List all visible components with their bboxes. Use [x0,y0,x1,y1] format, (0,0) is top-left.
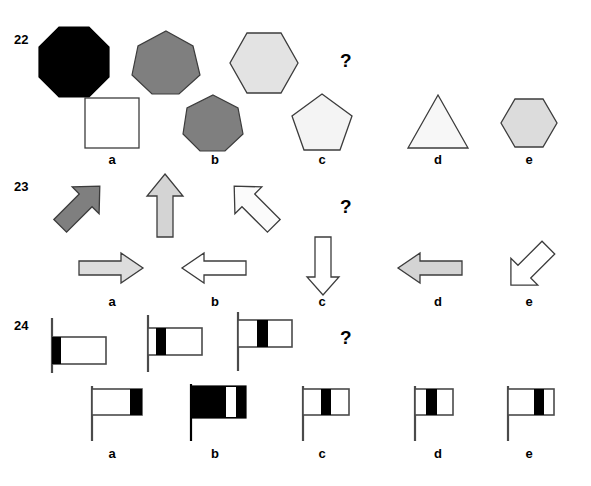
problem-23-option-b-label: b [205,294,225,309]
problem-22-prompt-hexagon [229,32,299,94]
problem-24-option-d-label: d [428,446,448,461]
problem-24-option-e-label: e [519,446,539,461]
problem-23-option-b-arrow-left[interactable] [180,251,248,285]
puzzle-page: 22 ? a b c [0,0,591,486]
problem-number-22: 22 [14,32,28,47]
problem-23-question-mark: ? [340,196,352,218]
problem-23-option-c-arrow-down[interactable] [305,235,341,297]
problem-23-option-a-arrow-right[interactable] [77,251,145,285]
problem-23-prompt-arrow-up-left [218,177,290,235]
problem-23-option-d-arrow-left[interactable] [396,251,464,285]
problem-22-option-b-label: b [205,152,225,167]
problem-24-option-c-flag[interactable] [300,386,358,442]
problem-24-question-mark: ? [340,327,352,349]
problem-23-option-a-label: a [102,294,122,309]
problem-24-option-b-flag[interactable] [188,384,254,442]
problem-22-option-a-square[interactable] [84,97,140,149]
problem-22-option-e-label: e [519,152,539,167]
problem-22-option-b-heptagon[interactable] [181,94,245,152]
problem-number-23: 23 [14,179,28,194]
problem-22-option-d-triangle[interactable] [406,94,470,150]
problem-22-question-mark: ? [340,50,352,72]
problem-24-prompt-flag-1 [49,318,111,374]
problem-23-option-c-label: c [312,294,332,309]
problem-number-24: 24 [14,318,28,333]
problem-23-prompt-arrow-up [145,173,185,239]
problem-24-option-c-label: c [312,446,332,461]
problem-24-option-a-label: a [102,446,122,461]
problem-24-option-d-flag[interactable] [412,386,464,442]
problem-24-option-e-flag[interactable] [505,386,563,442]
problem-22-option-c-pentagon[interactable] [290,93,354,151]
problem-22-prompt-octagon [38,26,110,98]
problem-23-option-d-label: d [428,294,448,309]
problem-22-option-c-label: c [312,152,332,167]
problem-24-option-b-label: b [205,446,225,461]
problem-22-prompt-heptagon [131,30,201,96]
problem-24-prompt-flag-3 [235,312,297,372]
problem-22-option-a-label: a [102,152,122,167]
problem-22-option-d-label: d [428,152,448,167]
problem-22-option-e-hexagon[interactable] [500,98,558,148]
problem-23-prompt-arrow-up-right [44,177,116,235]
problem-23-option-e-arrow-down-left[interactable] [496,238,564,294]
problem-23-option-e-label: e [519,294,539,309]
problem-24-prompt-flag-2 [145,315,207,373]
problem-24-option-a-flag[interactable] [89,386,149,442]
